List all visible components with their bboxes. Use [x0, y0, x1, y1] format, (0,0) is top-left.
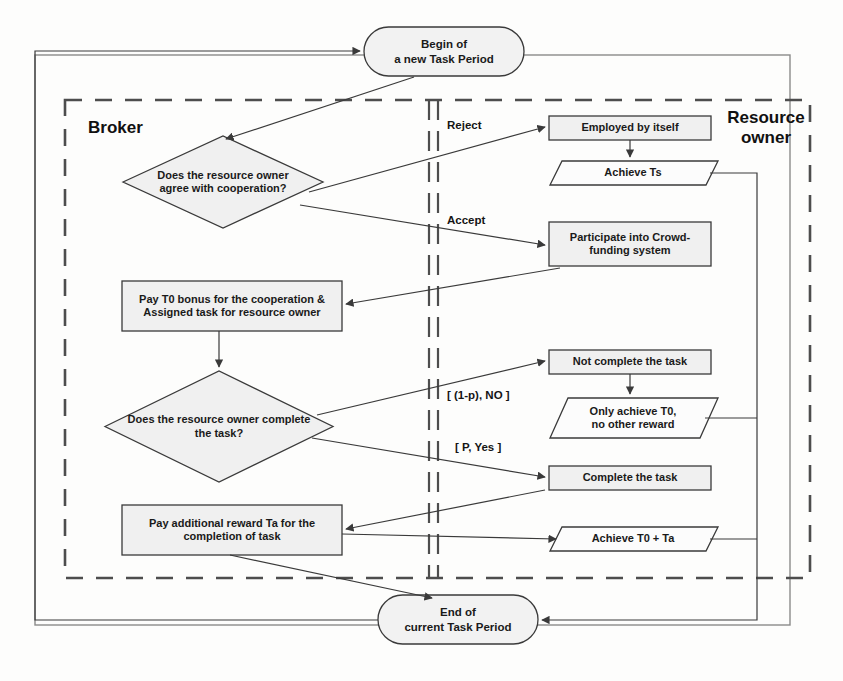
shape-achieve-ts [550, 161, 718, 185]
edge-label-reject: Reject [447, 119, 482, 131]
edge-label-yes-branch: [ P, Yes ] [455, 441, 501, 453]
edge-no-to-not-complete [317, 361, 545, 415]
shape-achieve-t0-ta [550, 527, 718, 551]
lane-title-resource-owner: Resource owner [718, 108, 814, 147]
edge-pay-additional-to-end [230, 555, 432, 598]
edge-complete-to-pay-additional [346, 490, 545, 529]
edge-participate-to-pay-t0 [346, 268, 560, 304]
shape-participate-crowdfunding [549, 222, 711, 266]
shape-only-achieve-t0 [550, 398, 718, 438]
edge-begin-to-decide-cooperate [226, 77, 414, 139]
edge-label-accept: Accept [447, 214, 485, 226]
lane-title-broker: Broker [88, 118, 208, 138]
shape-complete-task [549, 466, 711, 490]
flowchart-vector-layer [0, 0, 843, 681]
shape-begin [364, 27, 524, 76]
edge-label-no-branch: [ (1-p), NO ] [447, 389, 510, 401]
shape-decide-cooperate [123, 136, 323, 228]
flowchart-canvas: Broker Resource owner Begin of a new Tas… [0, 0, 843, 681]
swimlane-divider [429, 100, 438, 578]
shape-end [378, 595, 538, 644]
shape-pay-t0-bonus [122, 281, 342, 331]
edge-reject-to-employed [309, 127, 545, 192]
edge-accept-to-participate [300, 205, 545, 245]
shape-decide-complete [105, 371, 333, 482]
shape-employed-by-itself [549, 116, 711, 140]
edge-pay-additional-to-achieve-t0-ta [342, 534, 556, 539]
shape-pay-additional-reward [122, 505, 342, 555]
shape-not-complete-task [549, 350, 711, 374]
